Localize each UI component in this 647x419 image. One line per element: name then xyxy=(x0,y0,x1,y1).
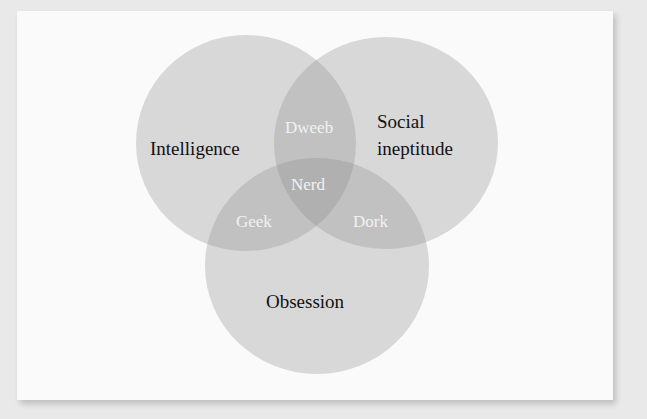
label-intelligence: Intelligence xyxy=(150,138,240,159)
label-geek: Geek xyxy=(236,212,272,231)
label-nerd: Nerd xyxy=(291,175,325,194)
label-ineptitude: ineptitude xyxy=(377,138,453,159)
label-dork: Dork xyxy=(353,212,388,231)
label-obsession: Obsession xyxy=(266,291,345,312)
label-dweeb: Dweeb xyxy=(285,118,333,137)
label-social: Social xyxy=(377,111,425,132)
venn-circles xyxy=(136,35,498,374)
venn-diagram: Intelligence Social ineptitude Obsession… xyxy=(0,0,647,419)
